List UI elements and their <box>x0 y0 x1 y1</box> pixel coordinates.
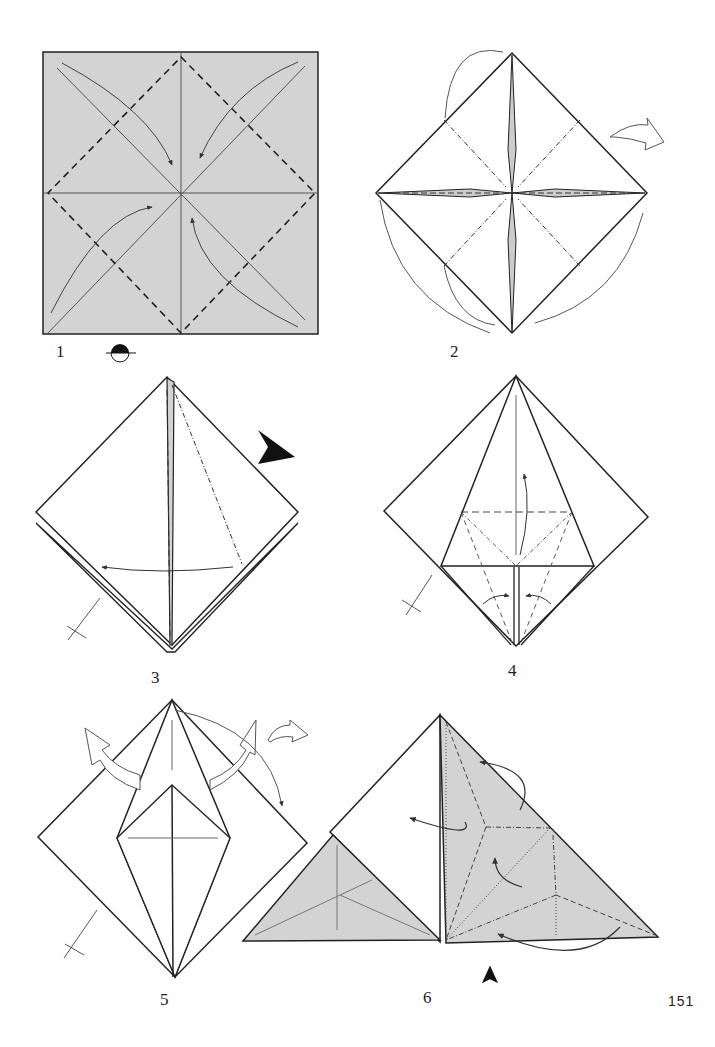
push-arrow-icon <box>484 968 496 981</box>
step-number: 4 <box>508 661 517 681</box>
step-4-diagram <box>384 376 648 646</box>
step-2-diagram <box>376 50 664 333</box>
step-number: 1 <box>56 342 65 362</box>
step-number: 2 <box>450 342 459 362</box>
turn-over-hollow-arrow-icon <box>610 118 664 150</box>
step-6-diagram <box>243 715 658 950</box>
origami-diagram-page <box>0 0 715 1047</box>
push-arrow-icon <box>258 430 295 464</box>
page-number: 151 <box>668 993 694 1009</box>
turn-over-icon <box>106 344 136 362</box>
step-number: 6 <box>423 988 432 1008</box>
step-number: 5 <box>160 990 169 1010</box>
step-number: 3 <box>151 668 160 688</box>
step-3-diagram <box>36 377 298 652</box>
step-1-diagram <box>43 52 318 334</box>
